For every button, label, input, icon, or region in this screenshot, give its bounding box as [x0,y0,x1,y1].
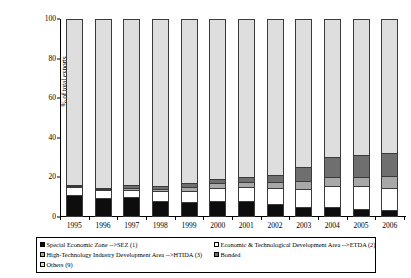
bar-2001[interactable] [238,19,255,217]
x-tick-mark [375,217,376,220]
legend-label-sez: Special Economic Zone -->SEZ (1) [47,240,138,250]
x-tick-label-1998: 1998 [153,222,168,230]
legend: Special Economic Zone -->SEZ (1) Economi… [36,237,376,273]
y-tick-label: 80 [49,55,57,63]
bar-segment-sez [325,207,340,216]
y-tick-mark [57,58,60,59]
bar-segment-htida [382,176,397,188]
x-tick-mark [318,217,319,220]
legend-label-others: Others (9) [47,260,73,270]
bar-segment-sez [153,201,168,216]
bar-segment-bonded [325,157,340,177]
legend-swatch-htida-icon [40,252,45,257]
chart-figure: % of total exports 020406080100 19951996… [0,0,411,278]
bar-segment-etda [325,186,340,208]
legend-item-others[interactable]: Others (9) [40,260,214,270]
legend-item-bonded[interactable]: Bonded [214,250,240,260]
bar-2006[interactable] [381,19,398,217]
bar-segment-etda [239,187,254,202]
legend-swatch-bonded-icon [214,252,219,257]
y-tick-label: 20 [49,174,57,182]
x-tick-label-1997: 1997 [124,222,139,230]
y-tick-mark [57,137,60,138]
bar-segment-bonded [354,155,369,177]
x-tick-label-2004: 2004 [325,222,340,230]
legend-item-htida[interactable]: High-Technology Industry Development Are… [40,250,214,260]
bar-segment-etda [182,191,197,202]
bar-segment-others [96,20,111,188]
bar-segment-etda [354,186,369,210]
y-tick-mark [57,98,60,99]
bar-segment-others [182,20,197,183]
x-tick-label-2006: 2006 [382,222,397,230]
bar-segment-etda [67,187,82,196]
x-tick-label-2000: 2000 [210,222,225,230]
bar-segment-others [382,20,397,153]
bar-segment-others [153,20,168,186]
legend-swatch-etda-icon [214,242,219,247]
bar-segment-bonded [382,153,397,176]
bar-segment-htida [325,177,340,186]
bar-2000[interactable] [209,19,226,217]
bar-segment-etda [153,191,168,201]
x-tick-label-2002: 2002 [268,222,283,230]
x-tick-label-2001: 2001 [239,222,254,230]
x-tick-label-2005: 2005 [354,222,369,230]
bar-segment-others [67,20,82,185]
y-tick-mark [57,177,60,178]
bar-segment-sez [296,207,311,216]
bar-segment-bonded [296,167,311,181]
x-tick-label-2003: 2003 [296,222,311,230]
bar-2003[interactable] [295,19,312,217]
bar-segment-htida [354,177,369,186]
y-tick-label: 40 [49,134,57,142]
legend-swatch-others-icon [40,262,45,267]
x-tick-label-1999: 1999 [182,222,197,230]
bar-segment-etda [124,190,139,198]
legend-row-1: Special Economic Zone -->SEZ (1) Economi… [40,240,372,250]
y-tick-label: 0 [52,213,56,221]
bar-segment-others [268,20,283,175]
bar-segment-etda [210,188,225,202]
x-tick-mark [289,217,290,220]
bar-2004[interactable] [324,19,341,217]
y-tick-label: 60 [49,94,57,102]
bar-2005[interactable] [353,19,370,217]
legend-item-etda[interactable]: Economic & Technological Development Are… [214,240,375,250]
bar-2002[interactable] [267,19,284,217]
bar-1999[interactable] [181,19,198,217]
bar-1997[interactable] [123,19,140,217]
legend-row-3: Others (9) [40,260,372,270]
bar-segment-others [296,20,311,167]
bar-segment-others [210,20,225,179]
legend-label-bonded: Bonded [221,250,241,260]
bar-segment-others [124,20,139,185]
bar-1998[interactable] [152,19,169,217]
bar-1996[interactable] [95,19,112,217]
legend-swatch-sez-icon [40,242,45,247]
legend-label-htida: High-Technology Industry Development Are… [47,250,203,260]
x-tick-mark [261,217,262,220]
bar-segment-htida [296,181,311,189]
bar-segment-sez [124,197,139,216]
y-tick-label: 100 [45,15,56,23]
bar-segment-sez [354,209,369,216]
bar-segment-etda [296,189,311,208]
bar-1995[interactable] [66,19,83,217]
bar-segment-sez [210,201,225,216]
x-tick-mark [347,217,348,220]
y-tick-mark [57,19,60,20]
legend-item-sez[interactable]: Special Economic Zone -->SEZ (1) [40,240,214,250]
x-tick-mark [146,217,147,220]
plot-area: % of total exports 020406080100 19951996… [60,19,404,217]
x-tick-mark [60,217,61,220]
bar-segment-sez [382,210,397,216]
bar-segment-sez [96,198,111,216]
x-tick-mark [232,217,233,220]
x-tick-mark [175,217,176,220]
bar-segment-sez [268,204,283,216]
bar-segment-etda [96,190,111,199]
bar-segment-others [239,20,254,177]
x-tick-label-1995: 1995 [67,222,82,230]
bar-segment-etda [382,188,397,211]
